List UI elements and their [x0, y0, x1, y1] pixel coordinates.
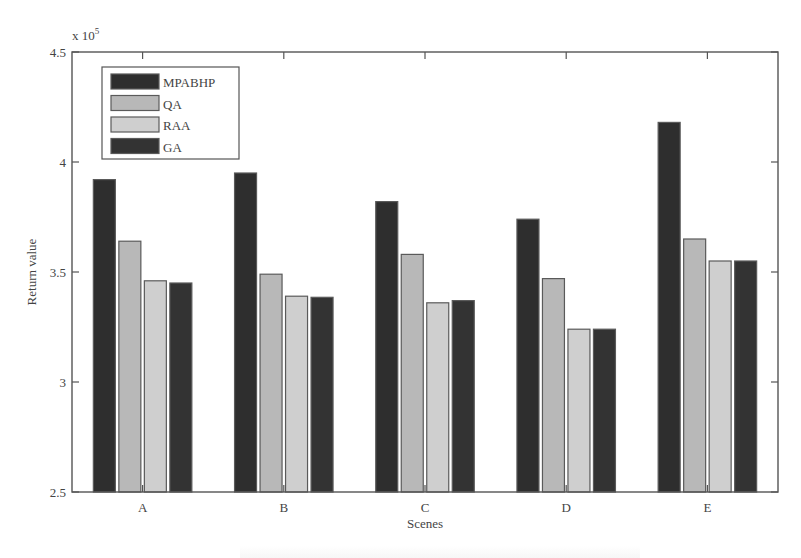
legend-swatch-raa [111, 117, 159, 132]
bar-ga-a [170, 283, 192, 492]
legend-label-mpabhp: MPABHP [163, 75, 215, 90]
legend-label-ga: GA [163, 140, 182, 155]
bars-layer [93, 122, 756, 492]
x-tick-label: A [138, 500, 148, 515]
legend-label-qa: QA [163, 97, 182, 112]
bar-raa-c [427, 303, 449, 492]
bar-qa-c [401, 254, 423, 492]
y-axis-label: Return value [24, 238, 39, 305]
bar-qa-a [119, 241, 141, 492]
bar-ga-c [452, 301, 474, 492]
y-tick-label: 4.5 [50, 45, 66, 60]
y-tick-label: 3 [60, 375, 67, 390]
bar-qa-b [260, 274, 282, 492]
bar-ga-d [593, 329, 615, 492]
x-tick-label: C [421, 500, 430, 515]
x-tick-label: E [703, 500, 711, 515]
bar-ga-b [311, 297, 333, 492]
legend-swatch-qa [111, 96, 159, 111]
bar-chart: 2.533.544.5 ABCDE x 105 Scenes Return va… [0, 0, 801, 558]
bar-mpabhp-b [235, 173, 257, 492]
x-tick-label: D [562, 500, 571, 515]
bar-qa-d [542, 279, 564, 492]
y-multiplier-label: x 105 [72, 26, 100, 43]
y-tick-label: 4 [60, 155, 67, 170]
x-axis-label: Scenes [407, 516, 443, 531]
legend-swatch-mpabhp [111, 74, 159, 89]
figure-caption-cutoff [240, 546, 640, 558]
bar-ga-e [735, 261, 757, 492]
y-tick-label: 2.5 [50, 485, 66, 500]
bar-mpabhp-a [93, 180, 115, 492]
legend-swatch-ga [111, 139, 159, 154]
bar-raa-e [709, 261, 731, 492]
y-tick-label: 3.5 [50, 265, 66, 280]
legend-label-raa: RAA [163, 118, 191, 133]
bar-mpabhp-d [517, 219, 539, 492]
bar-mpabhp-e [658, 122, 680, 492]
legend: MPABHPQARAAGA [102, 67, 239, 159]
bar-qa-e [684, 239, 706, 492]
bar-raa-b [286, 296, 308, 492]
bar-raa-a [144, 281, 166, 492]
bar-raa-d [568, 329, 590, 492]
bar-mpabhp-c [376, 202, 398, 492]
x-tick-label: B [279, 500, 288, 515]
